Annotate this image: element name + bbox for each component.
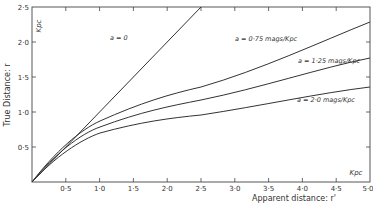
svg-text:1·5: 1·5 xyxy=(128,185,139,193)
svg-text:3·5: 3·5 xyxy=(263,185,274,193)
svg-text:5·0: 5·0 xyxy=(362,185,373,193)
curve-label-a0: a = 0 xyxy=(110,34,128,42)
x-axis-ticks xyxy=(66,7,336,182)
svg-text:0·5: 0·5 xyxy=(18,144,29,152)
svg-text:1·0: 1·0 xyxy=(18,109,29,117)
svg-text:4·5: 4·5 xyxy=(331,185,342,193)
svg-text:2·0: 2·0 xyxy=(18,39,29,47)
x-tick-labels: 0·5 1·0 1·5 2·0 2·5 3·0 3·5 4·0 4·5 5·0 xyxy=(60,185,373,193)
svg-text:3·0: 3·0 xyxy=(229,185,240,193)
svg-text:0·5: 0·5 xyxy=(60,185,71,193)
curve-label-a075: a = 0·75 mags/Kpc xyxy=(235,35,298,43)
chart: 0·5 1·0 1·5 2·0 2·5 3·0 3·5 4·0 4·5 5·0 … xyxy=(0,0,373,203)
svg-text:1·5: 1·5 xyxy=(18,74,29,82)
svg-text:2·5: 2·5 xyxy=(195,185,206,193)
curve-label-a20: a = 2·0 mags/Kpc xyxy=(297,96,355,104)
y-unit-label: Kpc xyxy=(35,19,43,32)
x-axis-label: Apparent distance: r' xyxy=(252,194,336,203)
svg-text:2·5: 2·5 xyxy=(18,4,29,12)
curve-a125 xyxy=(32,58,370,182)
y-axis-label: True Distance: r xyxy=(3,63,12,128)
svg-text:1·0: 1·0 xyxy=(94,185,105,193)
x-unit-label: Kpc xyxy=(350,169,363,177)
y-tick-labels: 0·5 1·0 1·5 2·0 2·5 xyxy=(18,4,29,152)
curve-label-a125: a = 1·25 mags/Kpc xyxy=(298,57,361,65)
svg-text:2·0: 2·0 xyxy=(162,185,173,193)
svg-text:4·0: 4·0 xyxy=(297,185,308,193)
